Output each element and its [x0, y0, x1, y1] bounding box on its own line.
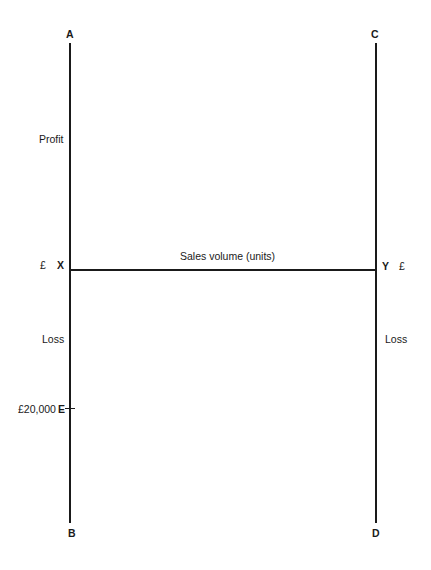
sales-volume-axis-line	[70, 269, 376, 271]
profit-label: Profit	[39, 133, 64, 145]
label-x: X	[57, 259, 64, 271]
label-a: A	[66, 28, 74, 40]
label-y: Y	[382, 260, 389, 272]
e-tick-mark	[65, 408, 75, 409]
left-axis-line	[69, 43, 71, 523]
left-loss-label: Loss	[42, 333, 64, 345]
sales-volume-label: Sales volume (units)	[180, 250, 275, 262]
right-axis-line	[375, 43, 377, 523]
right-loss-label: Loss	[385, 333, 407, 345]
label-e: E	[58, 403, 65, 415]
right-currency-label: £	[399, 260, 405, 272]
label-b: B	[68, 527, 76, 539]
left-currency-label: £	[40, 259, 46, 271]
label-c: C	[371, 28, 379, 40]
marker-value-label: £20,000	[18, 403, 56, 415]
label-d: D	[372, 527, 380, 539]
